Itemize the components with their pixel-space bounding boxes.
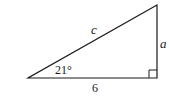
right-angle-marker bbox=[149, 70, 157, 78]
side-a-label: a bbox=[160, 36, 167, 51]
base-length-label: 6 bbox=[92, 81, 98, 95]
angle-label: 21° bbox=[55, 63, 72, 77]
triangle-outline bbox=[28, 5, 157, 78]
right-triangle-diagram: c a 6 21° bbox=[0, 0, 169, 97]
hypotenuse-label: c bbox=[91, 22, 97, 37]
